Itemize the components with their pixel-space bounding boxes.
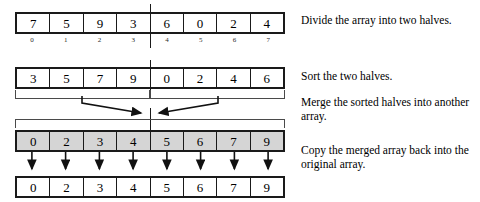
array-cell: 9 <box>84 14 117 32</box>
array-cell: 0 <box>184 14 217 32</box>
array-cell: 2 <box>217 14 250 32</box>
array-cell: 4 <box>251 14 283 32</box>
array-cell: 6 <box>184 178 217 196</box>
array-cell: 5 <box>50 69 83 87</box>
arrow-right-to-center <box>159 96 218 113</box>
caption-copy: Copy the merged array back into the orig… <box>301 144 479 171</box>
array-row-final: 02345679 <box>15 176 285 198</box>
array-index-label: 3 <box>116 36 150 44</box>
array-cell: 3 <box>84 132 117 150</box>
array-cell: 6 <box>184 132 217 150</box>
array-index-label: 7 <box>251 36 285 44</box>
array-index-label: 0 <box>15 36 49 44</box>
array-cell: 9 <box>117 69 150 87</box>
array-cell: 2 <box>50 132 83 150</box>
caption-divide: Divide the array into two halves. <box>301 14 479 28</box>
array-index-label: 4 <box>150 36 184 44</box>
array-cell: 9 <box>251 178 283 196</box>
array-cell: 3 <box>17 69 50 87</box>
array-cell: 7 <box>217 178 250 196</box>
array-cell: 2 <box>50 178 83 196</box>
merge-sort-diagram-canvas: 75936024 01234567 35790246 02345679 0234… <box>0 0 480 202</box>
array-cell: 7 <box>217 132 250 150</box>
array-cell: 4 <box>217 69 250 87</box>
array-index-label: 1 <box>49 36 83 44</box>
caption-merge: Merge the sorted halves into another arr… <box>301 96 479 123</box>
array-cell: 9 <box>251 132 283 150</box>
merge-arrows-group <box>15 96 285 122</box>
array-cell: 5 <box>151 178 184 196</box>
arrow-left-to-center <box>82 96 141 113</box>
array-index-label: 6 <box>218 36 252 44</box>
array-index-label: 5 <box>184 36 218 44</box>
array-cell: 6 <box>151 14 184 32</box>
split-divider-top <box>150 4 151 48</box>
array-cell: 0 <box>17 132 50 150</box>
array-cell: 3 <box>117 14 150 32</box>
array-cell: 7 <box>84 69 117 87</box>
array-cell: 6 <box>251 69 283 87</box>
captions-area: Divide the array into two halves. Sort t… <box>301 0 480 202</box>
array-cell: 4 <box>117 178 150 196</box>
diagram-area: 75936024 01234567 35790246 02345679 0234… <box>0 0 300 202</box>
array-cell: 5 <box>50 14 83 32</box>
array-cell: 7 <box>17 14 50 32</box>
array-cell: 3 <box>84 178 117 196</box>
array-cell: 0 <box>151 69 184 87</box>
array-cell: 0 <box>17 178 50 196</box>
array-index-label: 2 <box>83 36 117 44</box>
array-cell: 4 <box>117 132 150 150</box>
array-row-merged: 02345679 <box>15 130 285 152</box>
array-cell: 5 <box>151 132 184 150</box>
caption-sort: Sort the two halves. <box>301 70 479 84</box>
copy-arrows-group <box>15 152 285 176</box>
array-cell: 2 <box>184 69 217 87</box>
